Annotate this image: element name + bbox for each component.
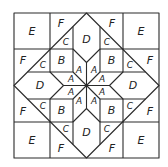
a-pieces	[64, 63, 110, 109]
label-c-7: C	[63, 124, 70, 134]
label-e-tr: E	[138, 25, 145, 38]
label-d-right: D	[129, 79, 137, 92]
label-c-4: C	[127, 60, 134, 70]
block: E E E E F F F F F F F F C C C C C C C C …	[14, 13, 159, 158]
quilt-diagram: E E E E F F F F F F F F C C C C C C C C …	[0, 0, 168, 167]
label-f-3: F	[20, 54, 27, 67]
label-b-tr: B	[108, 54, 116, 67]
label-b-bl: B	[58, 104, 66, 117]
label-b-tl: B	[58, 54, 66, 67]
label-f-4: F	[147, 54, 154, 67]
label-c-2: C	[104, 37, 111, 47]
label-e-br: E	[138, 134, 145, 147]
label-d-top: D	[82, 33, 90, 46]
label-c-5: C	[40, 101, 47, 111]
label-f-2: F	[109, 17, 116, 30]
label-e-tl: E	[29, 25, 36, 38]
label-f-8: F	[109, 142, 116, 155]
label-f-7: F	[58, 142, 65, 155]
label-a-4: A	[98, 74, 105, 84]
label-f-6: F	[147, 105, 154, 118]
label-a-1: A	[75, 65, 82, 75]
label-d-left: D	[36, 79, 44, 92]
label-a-7: A	[75, 96, 82, 106]
label-f-5: F	[20, 105, 27, 118]
label-f-1: F	[58, 17, 65, 30]
label-b-br: B	[108, 104, 116, 117]
label-a-8: A	[90, 96, 97, 106]
label-a-6: A	[98, 87, 105, 97]
label-a-3: A	[67, 74, 74, 84]
label-c-1: C	[63, 37, 70, 47]
label-c-3: C	[40, 60, 47, 70]
label-a-2: A	[90, 65, 97, 75]
label-e-bl: E	[29, 134, 36, 147]
label-c-6: C	[127, 101, 134, 111]
label-c-8: C	[104, 124, 111, 134]
label-a-5: A	[67, 87, 74, 97]
label-d-bottom: D	[82, 126, 90, 139]
